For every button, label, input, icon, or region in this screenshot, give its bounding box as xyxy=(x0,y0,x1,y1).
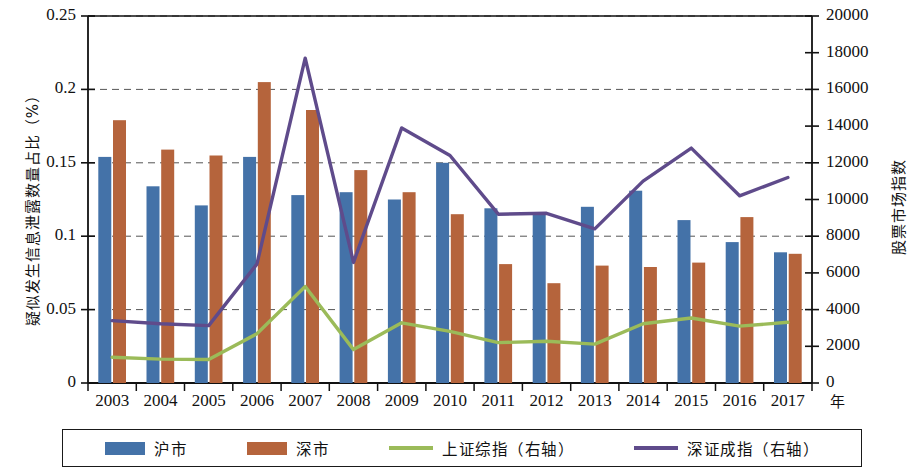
bar-沪市-2014 xyxy=(629,191,642,383)
bar-沪市-2009 xyxy=(388,200,401,384)
bar-沪市-2008 xyxy=(340,192,353,383)
chart-legend: 沪市深市上证综指（右轴）深证成指（右轴） xyxy=(62,429,862,467)
y-axis-right-title: 股票市场指数 xyxy=(887,72,908,342)
legend-label: 深证成指（右轴） xyxy=(687,437,819,459)
bar-深市-2004 xyxy=(161,150,174,383)
bar-深市-2010 xyxy=(451,214,464,383)
y-axis-right-tick-label: 20000 xyxy=(826,5,886,25)
bar-沪市-2011 xyxy=(484,208,497,383)
bar-沪市-2012 xyxy=(533,214,546,383)
y-axis-right-tick-label: 18000 xyxy=(826,42,886,62)
y-axis-right-tick-label: 2000 xyxy=(826,335,886,355)
bar-沪市-2016 xyxy=(726,242,739,383)
y-axis-left-tick-label: 0.1 xyxy=(22,225,76,245)
bar-沪市-2017 xyxy=(774,252,787,383)
bar-深市-2015 xyxy=(692,263,705,383)
legend-swatch-line xyxy=(634,446,678,450)
y-axis-left-tick-label: 0.25 xyxy=(22,5,76,25)
y-axis-right-tick-label: 14000 xyxy=(826,115,886,135)
legend-item-深市[interactable]: 深市 xyxy=(247,437,329,459)
x-axis-tick-label-2017: 2017 xyxy=(758,391,818,411)
bar-沪市-2004 xyxy=(147,186,160,383)
bar-沪市-2010 xyxy=(436,163,449,383)
y-axis-left-tick-label: 0.15 xyxy=(22,152,76,172)
bar-深市-2003 xyxy=(113,120,126,383)
legend-label: 沪市 xyxy=(154,437,187,459)
bar-深市-2017 xyxy=(789,254,802,383)
y-axis-right-tick-label: 10000 xyxy=(826,189,886,209)
legend-swatch-bar xyxy=(247,442,287,455)
legend-item-上证综指（右轴）[interactable]: 上证综指（右轴） xyxy=(389,437,574,459)
legend-item-深证成指（右轴）[interactable]: 深证成指（右轴） xyxy=(634,437,819,459)
y-axis-right-tick-label: 16000 xyxy=(826,78,886,98)
bar-沪市-2013 xyxy=(581,207,594,383)
legend-label: 上证综指（右轴） xyxy=(442,437,574,459)
y-axis-right-tick-label: 12000 xyxy=(826,152,886,172)
y-axis-left-tick-label: 0 xyxy=(22,372,76,392)
bar-深市-2009 xyxy=(403,192,416,383)
y-axis-left-tick-label: 0.05 xyxy=(22,299,76,319)
bar-沪市-2003 xyxy=(98,157,111,383)
bar-深市-2005 xyxy=(210,156,223,384)
chart-figure: 疑似发生信息泄露数量占比（%） 股票市场指数 年 00.050.10.150.2… xyxy=(0,0,908,471)
y-axis-left-tick-label: 0.2 xyxy=(22,78,76,98)
bar-深市-2013 xyxy=(596,266,609,383)
bar-深市-2008 xyxy=(354,170,367,383)
y-axis-right-tick-label: 4000 xyxy=(826,299,886,319)
bar-深市-2007 xyxy=(306,110,319,383)
bar-沪市-2015 xyxy=(678,220,691,383)
legend-swatch-line xyxy=(389,446,433,450)
x-axis-unit-label: 年 xyxy=(830,390,845,411)
bar-沪市-2005 xyxy=(195,205,208,383)
legend-item-沪市[interactable]: 沪市 xyxy=(105,437,187,459)
y-axis-right-tick-label: 6000 xyxy=(826,262,886,282)
legend-swatch-bar xyxy=(105,442,145,455)
y-axis-right-tick-label: 0 xyxy=(826,372,886,392)
y-axis-right-tick-label: 8000 xyxy=(826,225,886,245)
bar-深市-2016 xyxy=(740,217,753,383)
bar-深市-2012 xyxy=(547,283,560,383)
bar-深市-2011 xyxy=(499,264,512,383)
legend-label: 深市 xyxy=(296,437,329,459)
